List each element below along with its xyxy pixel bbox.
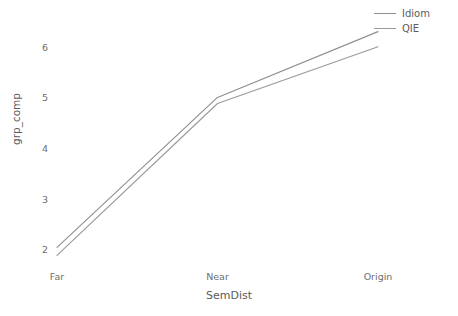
y-tick-label: 6 (26, 41, 48, 52)
legend-label: Idiom (402, 8, 430, 19)
series-line-qie (57, 47, 378, 256)
x-axis-title: SemDist (0, 289, 458, 302)
legend-swatch-icon (374, 13, 396, 14)
plot-area (0, 0, 458, 316)
x-tick-label-far: Far (50, 271, 64, 282)
legend-item-idiom[interactable]: Idiom (374, 6, 454, 21)
legend-swatch-icon (374, 28, 396, 29)
x-tick-label-near: Near (206, 271, 229, 282)
y-tick-label: 5 (26, 92, 48, 103)
x-tick-label-origin: Origin (364, 271, 393, 282)
y-tick-label: 3 (26, 193, 48, 204)
legend-item-qie[interactable]: QIE (374, 21, 454, 36)
y-tick-label: 4 (26, 143, 48, 154)
line-chart: 23456 FarNearOrigin grp_comp SemDist Idi… (0, 0, 458, 316)
legend: IdiomQIE (374, 6, 454, 36)
series-lines (57, 32, 378, 256)
legend-label: QIE (402, 23, 419, 34)
y-axis-title: grp_comp (10, 93, 22, 145)
y-tick-label: 2 (26, 244, 48, 255)
